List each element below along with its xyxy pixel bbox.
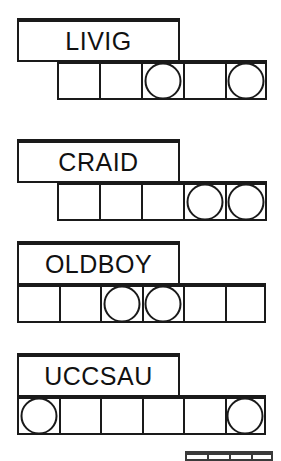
circle-marker-icon — [145, 63, 182, 100]
answer-cell[interactable] — [59, 395, 101, 435]
partial-answer-cell — [185, 451, 207, 461]
answer-cell[interactable] — [59, 283, 101, 323]
partial-answer-cell-strip — [185, 451, 273, 461]
answer-cell[interactable] — [183, 181, 225, 221]
scrambled-word-box: CRAID — [17, 139, 180, 183]
answer-cell[interactable] — [57, 60, 99, 100]
answer-cell[interactable] — [225, 181, 267, 221]
answer-cell[interactable] — [17, 395, 59, 435]
answer-cell[interactable] — [141, 60, 183, 100]
answer-cell-strip — [17, 283, 266, 323]
answer-cell[interactable] — [225, 283, 267, 323]
answer-cell[interactable] — [99, 181, 141, 221]
answer-cell[interactable] — [142, 395, 184, 435]
circle-marker-icon — [228, 184, 265, 221]
scrambled-word-text: OLDBOY — [45, 252, 152, 277]
scrambled-word-text: CRAID — [58, 150, 138, 175]
answer-cell[interactable] — [17, 283, 59, 323]
answer-cell[interactable] — [183, 395, 225, 435]
scrambled-word-text: UCCSAU — [44, 364, 153, 389]
circle-marker-icon — [103, 286, 140, 323]
answer-cell[interactable] — [225, 395, 267, 435]
answer-cell[interactable] — [183, 283, 225, 323]
scrambled-word-box: LIVIG — [17, 18, 180, 62]
scrambled-word-text: LIVIG — [65, 29, 131, 54]
answer-cell[interactable] — [142, 283, 184, 323]
circle-marker-icon — [227, 398, 264, 435]
scrambled-word-box: UCCSAU — [17, 353, 180, 397]
scrambled-word-box: OLDBOY — [17, 241, 180, 285]
partial-answer-cell — [229, 451, 251, 461]
circle-marker-icon — [228, 63, 265, 100]
answer-cell[interactable] — [100, 395, 142, 435]
answer-cell[interactable] — [183, 60, 225, 100]
partial-answer-cell — [207, 451, 229, 461]
answer-cell-strip — [17, 395, 266, 435]
answer-cell[interactable] — [57, 181, 99, 221]
answer-cell-strip — [57, 60, 267, 100]
circle-marker-icon — [187, 184, 224, 221]
answer-cell[interactable] — [100, 283, 142, 323]
answer-cell[interactable] — [225, 60, 267, 100]
circle-marker-icon — [20, 398, 57, 435]
answer-cell[interactable] — [141, 181, 183, 221]
answer-cell-strip — [57, 181, 267, 221]
circle-marker-icon — [145, 286, 182, 323]
answer-cell[interactable] — [99, 60, 141, 100]
partial-answer-cell — [251, 451, 273, 461]
